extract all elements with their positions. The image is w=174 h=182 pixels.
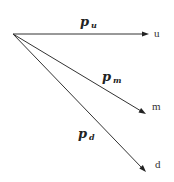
probability-label-middle: pm xyxy=(102,69,122,85)
arrow-line-middle xyxy=(13,34,141,111)
probability-label-up: pu xyxy=(80,14,97,30)
arrowhead-up-icon xyxy=(142,32,149,37)
branch-down: pd d xyxy=(13,34,161,172)
node-label-down: d xyxy=(155,158,161,170)
node-label-up: u xyxy=(154,27,160,39)
arrowhead-middle-icon xyxy=(139,108,147,114)
trinomial-tree-diagram: pu u pm m pd d xyxy=(0,0,174,182)
arrow-line-down xyxy=(13,34,142,168)
probability-label-down: pd xyxy=(78,126,95,142)
branch-middle: pm m xyxy=(13,34,161,114)
branch-up: pu u xyxy=(13,14,160,39)
node-label-middle: m xyxy=(152,100,161,112)
